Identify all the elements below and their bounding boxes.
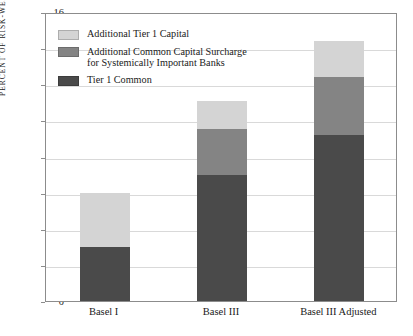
bar-segment <box>314 135 364 301</box>
bar-segment <box>197 175 247 301</box>
bar-segment <box>80 193 130 247</box>
x-tick-label: Basel III Adjusted <box>258 306 413 317</box>
legend-item: Additional Tier 1 Capital <box>58 28 247 40</box>
legend-swatch-additional-tier-1-capital <box>58 30 79 40</box>
plot-area: Additional Tier 1 Capital Additional Com… <box>45 13 397 302</box>
legend-label: Additional Tier 1 Capital <box>87 28 189 39</box>
bar-segment <box>197 101 247 130</box>
chart-legend: Additional Tier 1 Capital Additional Com… <box>58 28 247 92</box>
bar-group <box>314 12 364 301</box>
legend-swatch-additional-common-capital-surcharge <box>58 47 79 57</box>
stacked-bar-chart-figure: PERCENT OF RISK-WEIGHTED ASSETS 02468101… <box>0 0 413 336</box>
legend-label: Tier 1 Common <box>87 74 152 85</box>
y-axis-title: PERCENT OF RISK-WEIGHTED ASSETS <box>0 0 7 96</box>
legend-label: Additional Common Capital Surcharge for … <box>87 46 247 69</box>
bar-segment <box>80 247 130 301</box>
legend-swatch-tier-1-common <box>58 76 79 86</box>
bar-segment <box>314 77 364 135</box>
legend-item: Additional Common Capital Surcharge for … <box>58 46 247 69</box>
legend-item: Tier 1 Common <box>58 74 247 86</box>
bar-segment <box>314 41 364 77</box>
y-tick-mark <box>41 302 45 303</box>
bar-segment <box>197 129 247 174</box>
